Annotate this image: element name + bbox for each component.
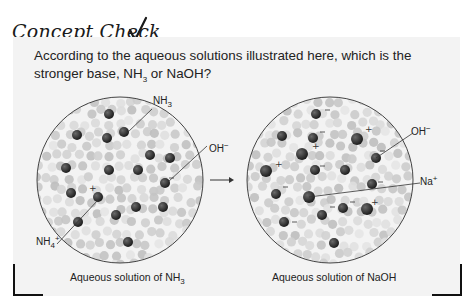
label-oh-left: OH− <box>209 141 229 154</box>
bracket-bottom-right <box>432 264 462 296</box>
caption-left: Aqueous solution of NH3 <box>70 271 185 286</box>
svg-text:+: + <box>371 197 379 207</box>
label-na: Na+ <box>420 174 437 187</box>
label-oh-right: OH− <box>411 124 431 137</box>
bracket-bottom-left <box>13 264 43 296</box>
svg-text:+: + <box>89 183 97 193</box>
label-nh4: NH4+ <box>36 234 60 250</box>
svg-text:+: + <box>275 159 283 169</box>
caption-right: Aqueous solution of NaOH <box>272 271 396 283</box>
svg-text:+: + <box>365 124 373 134</box>
svg-text:+: + <box>312 141 320 151</box>
molecules-layer: +++++ <box>0 0 474 299</box>
label-nh3: NH3 <box>153 95 172 109</box>
